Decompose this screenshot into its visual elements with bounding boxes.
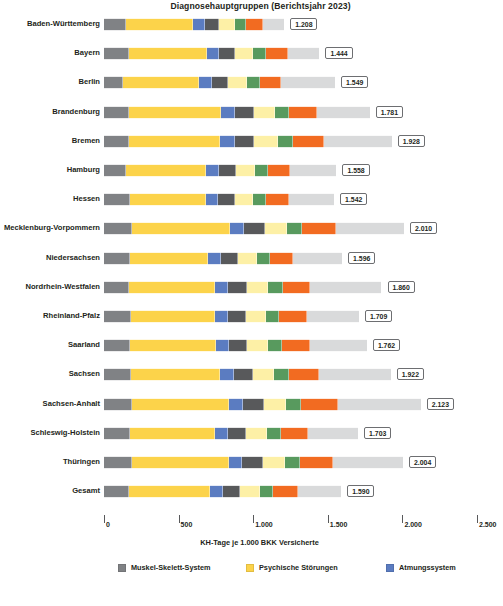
chart-row: Berlin1.549 — [0, 76, 503, 89]
x-axis-tick-label: 500 — [179, 521, 193, 528]
legend-swatch-icon — [246, 564, 254, 572]
chart-title: Diagnosehauptgruppen (Berichtsjahr 2023) — [0, 1, 503, 11]
stacked-bar — [104, 485, 341, 498]
bar-segment-psychische-st-rungen — [126, 164, 206, 177]
bar-segment-atmungssystem — [220, 135, 235, 148]
bar-segment-sonstige — [336, 222, 404, 235]
row-label-saarland: Saarland — [68, 338, 100, 351]
row-label-sachsen-anhalt: Sachsen-Anhalt — [43, 397, 100, 410]
bar-segment-verdauungssystem — [247, 76, 260, 89]
stacked-bar — [104, 222, 404, 235]
chart-row: Mecklenburg-Vorpommern2.010 — [0, 222, 503, 235]
bar-segment-muskel-skelett-system — [104, 427, 130, 440]
bar-segment-herz-kreislauf-system — [302, 222, 336, 235]
bar-segment-verdauungssystem — [253, 47, 266, 60]
bar-segment-psychische-st-rungen — [129, 106, 221, 119]
chart-row: Bayern1.444 — [0, 47, 503, 60]
bar-segment-neubildungen — [235, 47, 253, 60]
bar-segment-muskel-skelett-system — [104, 222, 132, 235]
row-label-th-ringen: Thüringen — [63, 455, 100, 468]
bar-segment-herz-kreislauf-system — [281, 427, 308, 440]
bar-segment-muskel-skelett-system — [104, 456, 132, 469]
bar-segment-verdauungssystem — [278, 135, 294, 148]
x-axis-tick-label: 1.000 — [253, 521, 273, 528]
stacked-bar — [104, 47, 319, 60]
bar-segment-herz-kreislauf-system — [283, 281, 310, 294]
bar-segment-psychische-st-rungen — [132, 398, 229, 411]
bar-segment-atmungssystem — [229, 398, 243, 411]
bar-segment-verdauungssystem — [253, 193, 266, 206]
row-label-schleswig-holstein: Schleswig-Holstein — [30, 426, 100, 439]
bar-segment-verdauungssystem — [275, 106, 289, 119]
bar-segment-herz-kreislauf-system — [301, 398, 337, 411]
bar-segment-sonstige — [319, 368, 391, 381]
bar-segment-herz-kreislauf-system — [282, 339, 310, 352]
legend-item-atmungssystem[interactable]: Atmungssystem — [386, 561, 503, 575]
row-label-brandenburg: Brandenburg — [52, 105, 100, 118]
bar-segment-herz-kreislauf-system — [300, 456, 333, 469]
chart-row: Brandenburg1.781 — [0, 106, 503, 119]
bar-segment-verletzungen-vergiftungen — [229, 339, 247, 352]
chart-row: Baden-Württemberg1.208 — [0, 18, 503, 31]
row-label-berlin: Berlin — [78, 75, 100, 88]
x-axis-label: KH-Tage je 1.000 BKK Versicherte — [0, 538, 503, 547]
legend-item-psychische-st-rungen[interactable]: Psychische Störungen — [246, 561, 386, 575]
chart-row: Sachsen-Anhalt2.123 — [0, 398, 503, 411]
bar-segment-verdauungssystem — [287, 222, 302, 235]
bar-total-label: 1.558 — [342, 164, 369, 176]
bar-total-label: 1.596 — [348, 252, 375, 264]
legend-item-muskel-skelett-system[interactable]: Muskel-Skelett-System — [118, 561, 246, 575]
bar-segment-neubildungen — [246, 310, 266, 323]
x-axis-tick-label: 2.000 — [402, 521, 422, 528]
bar-segment-atmungssystem — [193, 18, 205, 31]
bar-total-label: 2.123 — [427, 398, 454, 410]
x-axis: 05001.0001.5002.0002.500 — [0, 515, 503, 539]
row-label-bremen: Bremen — [72, 134, 100, 147]
bar-segment-psychische-st-rungen — [129, 485, 210, 498]
bar-segment-atmungssystem — [210, 485, 223, 498]
bar-segment-verdauungssystem — [268, 281, 282, 294]
bar-segment-herz-kreislauf-system — [266, 193, 288, 206]
bar-segment-neubildungen — [238, 252, 257, 265]
bar-segment-verletzungen-vergiftungen — [223, 485, 241, 498]
stacked-bar — [104, 456, 403, 469]
bar-segment-sonstige — [310, 281, 382, 294]
bar-segment-verdauungssystem — [255, 164, 268, 177]
legend-swatch-icon — [118, 564, 126, 572]
bar-segment-atmungssystem — [221, 106, 235, 119]
bar-segment-atmungssystem — [207, 47, 219, 60]
bar-segment-verdauungssystem — [267, 427, 281, 440]
row-label-nordrhein-westfalen: Nordrhein-Westfalen — [25, 280, 100, 293]
bar-segment-neubildungen — [253, 368, 274, 381]
stacked-bar — [104, 310, 359, 323]
bar-segment-psychische-st-rungen — [131, 368, 221, 381]
stacked-bar — [104, 135, 392, 148]
bar-segment-sonstige — [324, 135, 392, 148]
stacked-bar — [104, 398, 421, 411]
bar-total-label: 1.208 — [290, 18, 317, 30]
x-axis-tick-label: 0 — [104, 521, 110, 528]
bar-segment-neubildungen — [219, 18, 235, 31]
bar-segment-verletzungen-vergiftungen — [234, 368, 253, 381]
stacked-bar — [104, 339, 367, 352]
bar-total-label: 1.762 — [373, 339, 400, 351]
chart-row: Saarland1.762 — [0, 339, 503, 352]
bar-segment-verletzungen-vergiftungen — [242, 456, 263, 469]
stacked-bar — [104, 164, 336, 177]
bar-total-label: 1.444 — [325, 47, 352, 59]
bar-segment-neubildungen — [235, 193, 254, 206]
bar-total-label: 1.922 — [397, 368, 424, 380]
bar-segment-neubildungen — [265, 222, 287, 235]
bar-segment-sonstige — [338, 398, 421, 411]
bar-segment-muskel-skelett-system — [104, 76, 123, 89]
bar-segment-psychische-st-rungen — [129, 135, 220, 148]
chart-row: Thüringen2.004 — [0, 456, 503, 469]
bar-segment-herz-kreislauf-system — [289, 106, 317, 119]
bar-segment-neubildungen — [247, 281, 268, 294]
bar-segment-muskel-skelett-system — [104, 398, 132, 411]
bar-segment-verletzungen-vergiftungen — [218, 193, 234, 206]
bar-total-label: 1.781 — [376, 106, 403, 118]
bar-segment-atmungssystem — [206, 164, 219, 177]
bar-segment-atmungssystem — [215, 310, 228, 323]
bar-segment-verdauungssystem — [260, 485, 273, 498]
